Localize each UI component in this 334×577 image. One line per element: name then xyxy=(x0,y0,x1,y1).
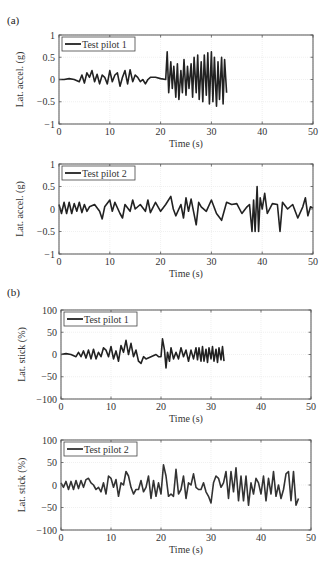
y-tick-label: 100 xyxy=(42,435,57,446)
legend-entry-label: Test pilot 2 xyxy=(84,444,129,455)
legend: Test pilot 2 xyxy=(64,442,137,456)
y-tick-label: −50 xyxy=(41,502,57,513)
x-tick-label: 10 xyxy=(106,532,116,543)
y-axis-label: Lat. stick (%) xyxy=(16,458,28,513)
x-axis-label: Time (s) xyxy=(169,544,203,556)
y-tick-label: −100 xyxy=(36,525,57,536)
chart-stick-pilot2: 01020304050100500−50−100Time (s)Lat. sti… xyxy=(0,0,334,577)
x-tick-label: 0 xyxy=(59,532,64,543)
x-tick-label: 50 xyxy=(306,532,316,543)
x-tick-label: 20 xyxy=(156,532,166,543)
x-tick-label: 40 xyxy=(256,532,266,543)
y-tick-label: 0 xyxy=(52,480,57,491)
x-tick-label: 30 xyxy=(206,532,216,543)
y-tick-label: 50 xyxy=(47,457,57,468)
